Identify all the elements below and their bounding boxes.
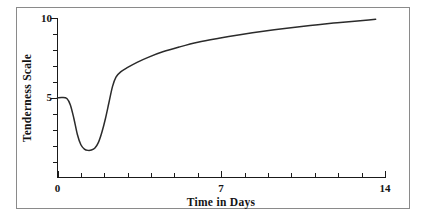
chart-figure: 10 5 0 7 14 Time in Days Tenderness Scal…	[0, 0, 423, 221]
y-axis-title: Tenderness Scale	[21, 54, 33, 142]
x-axis-title: Time in Days	[187, 196, 256, 209]
x-tick-label-0: 0	[55, 182, 61, 194]
x-tick-label-7: 7	[218, 182, 224, 194]
y-tick-label-5: 5	[47, 91, 53, 103]
chart-canvas: 10 5 0 7 14 Time in Days Tenderness Scal…	[0, 0, 423, 221]
tenderness-curve	[58, 19, 376, 150]
x-tick-label-14: 14	[380, 182, 392, 194]
y-tick-label-10: 10	[41, 12, 53, 24]
x-axis-ticks	[59, 171, 386, 178]
